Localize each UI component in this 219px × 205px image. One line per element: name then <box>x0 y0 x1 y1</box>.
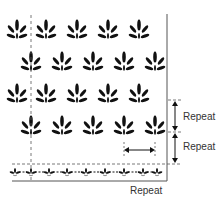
border-motif <box>43 168 54 176</box>
border-row <box>9 168 162 176</box>
leaf-motif <box>144 116 166 136</box>
horizontal-repeat-arrow <box>124 142 155 156</box>
border-motif <box>137 168 148 176</box>
leaf-motif <box>144 52 166 72</box>
leaf-motif <box>97 20 119 40</box>
border-motif <box>80 168 91 176</box>
leaf-motif <box>35 20 57 40</box>
border-motif <box>9 168 20 176</box>
leaf-motif <box>82 52 104 72</box>
leaf-motif <box>128 20 150 40</box>
leaf-motif <box>113 52 135 72</box>
horizontal-repeat-label: Repeat <box>130 186 162 196</box>
leaf-motif <box>6 20 28 40</box>
leaf-motif <box>6 84 28 104</box>
vertical-repeat-arrow-2 <box>172 133 178 163</box>
vertical-repeat-label-2: Repeat <box>183 142 215 152</box>
border-motif <box>61 168 72 176</box>
leaf-motif <box>128 84 150 104</box>
leaf-motif <box>97 84 119 104</box>
border-motif <box>151 168 162 176</box>
leaf-motif <box>51 116 73 136</box>
leaf-motif <box>66 84 88 104</box>
vertical-repeat-label-1: Repeat <box>183 112 215 122</box>
leaf-motif <box>20 52 42 72</box>
pattern-artwork <box>0 0 219 205</box>
repeat-pattern-diagram: Repeat Repeat Repeat <box>0 0 219 205</box>
leaf-motif <box>113 116 135 136</box>
motif-grid <box>6 20 166 136</box>
border-motif <box>118 168 129 176</box>
leaf-motif <box>35 84 57 104</box>
vertical-repeat-arrow-1 <box>172 101 178 131</box>
leaf-motif <box>82 116 104 136</box>
border-motif <box>99 168 110 176</box>
leaf-motif <box>66 20 88 40</box>
leaf-motif <box>51 52 73 72</box>
